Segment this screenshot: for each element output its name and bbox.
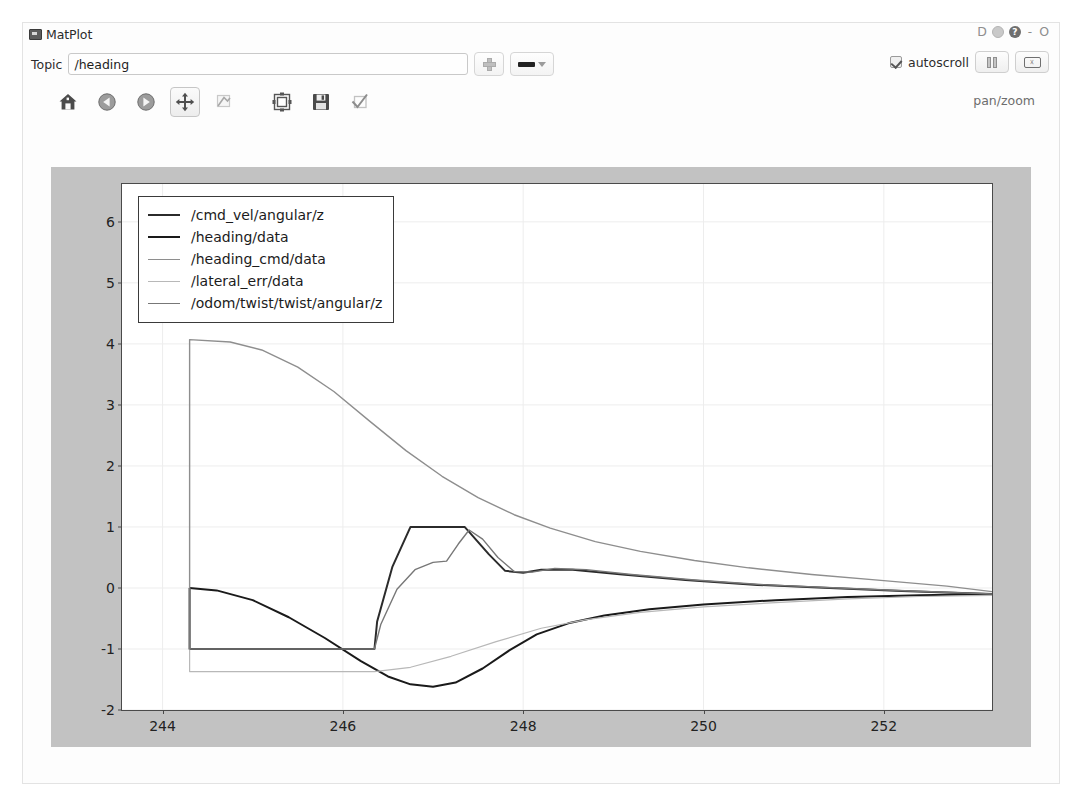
zoom-rect-icon [213, 91, 235, 113]
line-style-dropdown[interactable] [510, 52, 554, 76]
y-tick-mark [118, 526, 122, 527]
toggle-button[interactable] [345, 87, 375, 117]
legend-label: /heading_cmd/data [191, 251, 326, 267]
maximize-button[interactable]: O [1039, 26, 1049, 39]
topic-label: Topic [31, 57, 62, 72]
legend-swatch [148, 303, 180, 304]
y-tick-label: 3 [106, 397, 115, 413]
x-tick-mark [704, 710, 705, 714]
y-tick-label: 1 [106, 519, 115, 535]
clear-button[interactable]: ☓ [1015, 51, 1049, 73]
y-tick-mark [118, 648, 122, 649]
save-button[interactable] [306, 87, 336, 117]
subplot-config-icon [271, 91, 293, 113]
y-tick-mark [118, 465, 122, 466]
matplot-app-icon [29, 29, 42, 40]
plus-icon [483, 58, 496, 71]
figure-canvas[interactable]: -2-10123456244246248250252 /cmd_vel/angu… [51, 167, 1031, 747]
y-tick-mark [118, 404, 122, 405]
check-tick-icon [349, 91, 371, 113]
home-icon [57, 91, 79, 113]
window-controls: D ? - O [977, 25, 1049, 39]
y-tick-label: 6 [106, 214, 115, 230]
flower-icon[interactable] [992, 26, 1004, 38]
line-style-swatch [518, 62, 535, 67]
y-tick-mark [118, 221, 122, 222]
legend-label: /heading/data [191, 229, 289, 245]
legend-item[interactable]: /cmd_vel/angular/z [148, 204, 382, 226]
dock-icon[interactable]: D [977, 26, 987, 39]
plot-axes[interactable]: -2-10123456244246248250252 /cmd_vel/angu… [121, 183, 993, 711]
nav-mode-text: pan/zoom [973, 93, 1035, 108]
forward-arrow-icon [135, 91, 157, 113]
y-tick-mark [118, 587, 122, 588]
y-tick-mark [118, 343, 122, 344]
y-tick-label: 2 [106, 458, 115, 474]
x-tick-label: 248 [510, 718, 537, 734]
title-bar-left: MatPlot [29, 27, 1059, 42]
x-tick-mark [163, 710, 164, 714]
y-tick-label: -2 [101, 702, 115, 718]
x-tick-label: 246 [330, 718, 357, 734]
y-tick-label: 4 [106, 336, 115, 352]
zoom-button[interactable] [209, 87, 239, 117]
legend-swatch [148, 259, 180, 260]
y-tick-label: 0 [106, 580, 115, 596]
clear-icon: ☓ [1024, 57, 1041, 68]
title-bar: MatPlot D ? - O [23, 23, 1059, 49]
autoscroll-checkbox[interactable] [890, 56, 902, 68]
legend-swatch [148, 214, 180, 216]
y-tick-label: 5 [106, 275, 115, 291]
pan-move-icon [174, 91, 196, 113]
pan-button[interactable] [170, 87, 200, 117]
help-icon[interactable]: ? [1009, 26, 1021, 38]
forward-button[interactable] [131, 87, 161, 117]
back-button[interactable] [92, 87, 122, 117]
topic-bar-right: autoscroll ☓ [890, 51, 1049, 73]
topic-input[interactable] [68, 53, 468, 75]
window-title: MatPlot [46, 27, 92, 42]
autoscroll-label: autoscroll [908, 55, 969, 70]
pause-icon [987, 57, 997, 68]
home-button[interactable] [53, 87, 83, 117]
minimize-button[interactable]: - [1026, 25, 1034, 39]
save-floppy-icon [310, 91, 332, 113]
legend-swatch [148, 236, 180, 238]
legend-item[interactable]: /lateral_err/data [148, 270, 382, 292]
back-arrow-icon [96, 91, 118, 113]
x-tick-label: 252 [870, 718, 897, 734]
legend-label: /cmd_vel/angular/z [191, 207, 324, 223]
x-tick-label: 250 [690, 718, 717, 734]
matplot-window: MatPlot D ? - O Topic autoscroll ☓ [22, 22, 1060, 784]
legend-swatch [148, 281, 180, 282]
x-tick-label: 244 [149, 718, 176, 734]
pause-button[interactable] [975, 51, 1009, 73]
add-topic-button[interactable] [474, 52, 504, 76]
x-tick-mark [343, 710, 344, 714]
x-tick-mark [884, 710, 885, 714]
topic-bar: Topic autoscroll ☓ [23, 49, 1059, 79]
chevron-down-icon [538, 62, 546, 67]
subplots-button[interactable] [267, 87, 297, 117]
series-line [190, 530, 992, 649]
legend-item[interactable]: /heading_cmd/data [148, 248, 382, 270]
nav-toolbar: pan/zoom [23, 79, 1059, 125]
legend-label: /lateral_err/data [191, 273, 304, 289]
y-tick-label: -1 [101, 641, 115, 657]
legend-box[interactable]: /cmd_vel/angular/z/heading/data/heading_… [138, 196, 394, 323]
y-tick-mark [118, 710, 122, 711]
legend-item[interactable]: /heading/data [148, 226, 382, 248]
legend-item[interactable]: /odom/twist/twist/angular/z [148, 292, 382, 314]
x-tick-mark [523, 710, 524, 714]
legend-label: /odom/twist/twist/angular/z [191, 295, 382, 311]
y-tick-mark [118, 282, 122, 283]
